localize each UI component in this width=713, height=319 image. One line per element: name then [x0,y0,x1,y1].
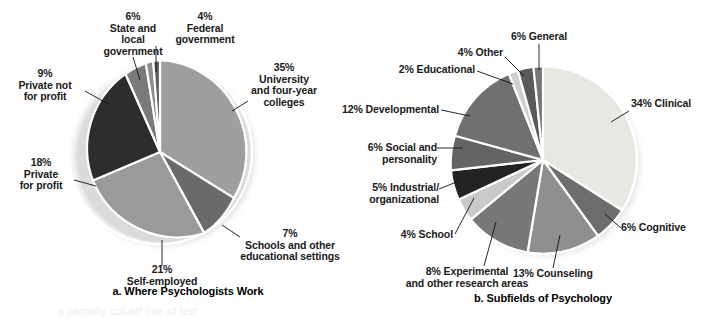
label-social-personality: 6% Social and personality [353,142,437,165]
label-clinical: 34% Clinical [631,98,713,110]
figure-two-pie-charts: 35% University and four-year colleges 7%… [0,0,713,319]
label-self-employed: 21% Self-employed [104,264,220,287]
label-educational: 2% Educational [369,64,475,76]
caption-chart-b: b. Subfields of Psychology [437,292,649,304]
label-industrial-organizational: 5% Industrial/ organizational [353,182,439,205]
label-private-for-profit: 18% Private for profit [4,157,78,192]
label-cognitive: 6% Cognitive [621,222,711,234]
label-university-four-year: 35% University and four-year colleges [226,62,342,108]
label-private-not-for-profit: 9% Private not for profit [2,68,88,103]
label-developmental: 12% Developmental [339,104,439,116]
label-experimental-research: 8% Experimental and other research areas [377,266,557,289]
label-schools-educational: 7% Schools and other educational setting… [222,228,358,263]
label-general: 6% General [489,31,589,43]
label-federal-government: 4% Federal government [152,11,258,46]
pie-chart-where-psychologists-work: 35% University and four-year colleges 7%… [0,0,360,319]
label-school: 4% School [377,229,453,241]
cut-off-text-fragment: a partially cut-off line of text [58,305,418,317]
caption-chart-a: a. Where Psychologists Work [68,285,308,297]
label-other: 4% Other [425,47,503,59]
pie-chart-subfields-of-psychology: 34% Clinical 6% Cognitive 13% Counseling… [353,0,713,319]
